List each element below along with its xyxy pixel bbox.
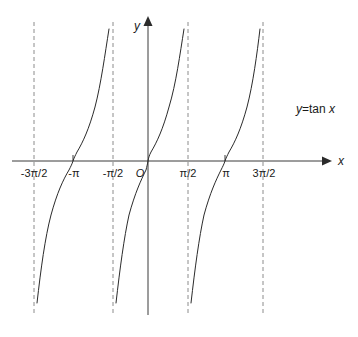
equation-operator: =tan xyxy=(302,102,329,116)
plot-canvas: x y -3π/2 -π -π/2 O π/2 xyxy=(0,0,358,337)
tick-label-minus-3pi-over-2: -3π/2 xyxy=(21,167,48,179)
equation-label: y=tan x xyxy=(295,102,336,116)
tick-label-3pi-over-2: 3π/2 xyxy=(253,167,276,179)
tick-label-pi: π xyxy=(222,167,230,179)
tick-label-minus-pi: -π xyxy=(68,167,80,179)
y-axis-arrow-icon xyxy=(144,16,153,26)
tan-branch-center xyxy=(116,29,184,303)
equation-annotation: y=tan x xyxy=(295,102,336,116)
x-axis-label: x xyxy=(337,154,345,168)
x-axis-arrow-icon xyxy=(322,157,332,166)
y-axis: y xyxy=(133,16,153,315)
tangent-function-plot: x y -3π/2 -π -π/2 O π/2 xyxy=(0,0,358,337)
tan-branch-left xyxy=(37,29,109,303)
equation-rhs: x xyxy=(328,102,336,116)
tick-label-pi-over-2: π/2 xyxy=(180,167,197,179)
origin-label: O xyxy=(136,167,145,179)
tick-label-minus-pi-over-2: -π/2 xyxy=(103,167,123,179)
y-axis-label: y xyxy=(133,19,141,33)
tan-branch-right xyxy=(191,29,260,303)
x-axis: x xyxy=(12,154,345,168)
